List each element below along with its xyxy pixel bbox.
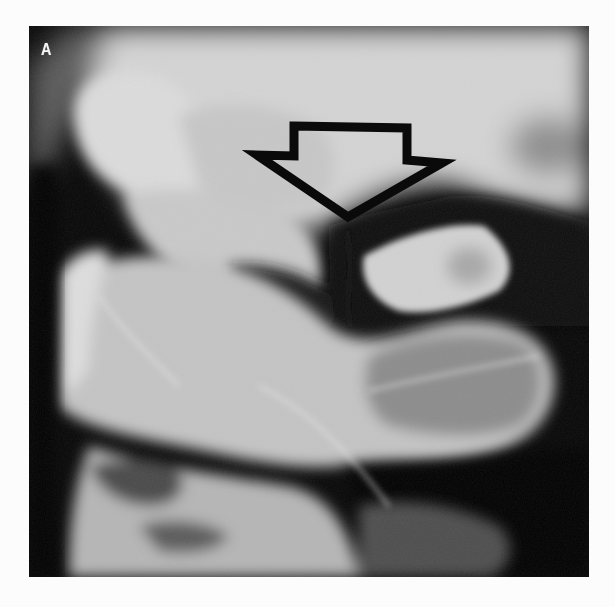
- radiograph-image: A: [29, 26, 589, 577]
- panel-label: A: [41, 41, 51, 58]
- radiograph-rendering: [29, 26, 589, 577]
- figure-page: A: [0, 0, 615, 607]
